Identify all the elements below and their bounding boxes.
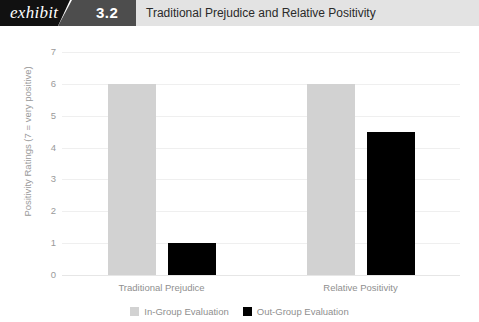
exhibit-word-label: exhibit [10,3,58,23]
category-label: Relative Positivity [261,282,460,294]
chart-legend: In-Group EvaluationOut-Group Evaluation [0,306,479,317]
y-tick-label: 0 [34,270,56,280]
exhibit-header: exhibit 3.2 Traditional Prejudice and Re… [0,0,479,26]
y-axis-tick-labels: 01234567 [32,52,56,275]
y-tick-label: 6 [34,79,56,89]
legend-item: In-Group Evaluation [130,306,229,317]
legend-label: Out-Group Evaluation [257,306,349,317]
bar-ingroup-0 [108,84,156,275]
legend-label: In-Group Evaluation [144,306,229,317]
legend-swatch-icon [243,307,252,316]
y-tick-label: 4 [34,143,56,153]
legend-swatch-icon [130,307,139,316]
y-tick-label: 1 [34,238,56,248]
y-tick-label: 2 [34,206,56,216]
exhibit-number: 3.2 [96,4,118,22]
legend-item: Out-Group Evaluation [243,306,349,317]
gridline-0 [62,275,460,276]
gridline-7 [62,52,460,53]
bar-outgroup-1 [367,132,415,275]
y-tick-label: 3 [34,174,56,184]
y-axis-title: Positivity Ratings (7 = very positive) [22,42,33,242]
chart-figure: Positivity Ratings (7 = very positive) 0… [0,26,479,322]
bar-outgroup-0 [168,243,216,275]
category-label: Traditional Prejudice [62,282,261,294]
y-tick-label: 5 [34,111,56,121]
y-tick-label: 7 [34,47,56,57]
plot-area [62,52,460,275]
exhibit-title: Traditional Prejudice and Relative Posit… [146,5,376,21]
bar-ingroup-1 [307,84,355,275]
